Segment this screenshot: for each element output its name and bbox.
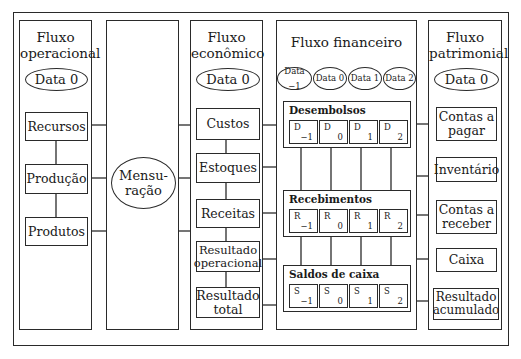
cell-d-minus1: D −1 bbox=[289, 120, 318, 144]
group-title: Recebimentos bbox=[289, 193, 372, 206]
date-ellipse: Data 2 bbox=[383, 67, 416, 90]
node-estoques: Estoques bbox=[196, 153, 260, 183]
node-produtos: Produtos bbox=[25, 217, 88, 246]
group-title: Saldos de caixa bbox=[289, 268, 379, 281]
date-label: Data −1 bbox=[278, 64, 311, 94]
date-ellipse: Data 1 bbox=[348, 67, 382, 90]
date-ellipse: Data 0 bbox=[25, 68, 88, 91]
node-resultado-total: Resultado total bbox=[196, 287, 260, 318]
cell-subscript: 1 bbox=[368, 296, 373, 306]
measurement-ellipse: Mensu- ração bbox=[111, 157, 176, 209]
cell-symbol: R bbox=[354, 211, 360, 221]
cell-subscript: −1 bbox=[300, 132, 313, 142]
node-caixa: Caixa bbox=[436, 248, 497, 272]
date-ellipse: Data −1 bbox=[277, 67, 312, 90]
ellipse-line: ração bbox=[125, 183, 162, 198]
node-label: acumulado bbox=[433, 304, 500, 317]
group-title: Desembolsos bbox=[289, 104, 366, 117]
date-label: Data 2 bbox=[385, 71, 413, 86]
node-label: total bbox=[213, 303, 242, 317]
node-resultado-acumulado: Resultado acumulado bbox=[433, 288, 499, 320]
node-label: Receitas bbox=[201, 207, 255, 221]
cell-r-minus1: R −1 bbox=[289, 209, 318, 233]
date-label: Data 0 bbox=[206, 72, 250, 87]
group-desembolsos: Desembolsos D −1 D 0 D 1 D 2 bbox=[283, 101, 411, 148]
date-label: Data 0 bbox=[316, 71, 344, 86]
node-resultado-operacional: Resultado operacional bbox=[196, 241, 260, 272]
node-inventario: Inventário bbox=[436, 157, 497, 182]
node-label: operacional bbox=[194, 257, 262, 270]
cell-symbol: S bbox=[294, 286, 300, 296]
node-label: Recursos bbox=[27, 120, 85, 134]
cell-s-1: S 1 bbox=[349, 284, 378, 308]
node-receitas: Receitas bbox=[196, 199, 260, 228]
cell-subscript: 1 bbox=[368, 132, 373, 142]
cell-r-2: R 2 bbox=[379, 209, 408, 233]
node-custos: Custos bbox=[196, 108, 260, 140]
cell-symbol: R bbox=[324, 211, 330, 221]
node-label: receber bbox=[442, 217, 491, 231]
cell-d-1: D 1 bbox=[349, 120, 378, 144]
cell-symbol: D bbox=[324, 122, 331, 132]
cell-s-0: S 0 bbox=[319, 284, 348, 308]
date-label: Data 0 bbox=[445, 72, 489, 87]
cell-symbol: D bbox=[384, 122, 391, 132]
cell-symbol: R bbox=[384, 211, 390, 221]
node-label: Resultado bbox=[196, 289, 259, 303]
cell-r-0: R 0 bbox=[319, 209, 348, 233]
cell-subscript: 0 bbox=[338, 296, 343, 306]
ellipse-line: Mensu- bbox=[119, 168, 168, 183]
node-recursos: Recursos bbox=[25, 112, 88, 141]
cell-symbol: S bbox=[324, 286, 330, 296]
cell-subscript: −1 bbox=[300, 221, 313, 231]
cell-symbol: D bbox=[354, 122, 361, 132]
cell-symbol: D bbox=[294, 122, 301, 132]
cell-subscript: 1 bbox=[368, 221, 373, 231]
cell-r-1: R 1 bbox=[349, 209, 378, 233]
date-ellipse: Data 0 bbox=[196, 68, 260, 91]
cell-d-2: D 2 bbox=[379, 120, 408, 144]
node-contas-a-pagar: Contas a pagar bbox=[436, 107, 497, 141]
cell-subscript: 0 bbox=[338, 221, 343, 231]
cell-subscript: −1 bbox=[300, 296, 313, 306]
node-label: Contas a bbox=[439, 203, 494, 217]
cell-s-minus1: S −1 bbox=[289, 284, 318, 308]
node-label: Resultado bbox=[199, 244, 257, 257]
group-recebimentos: Recebimentos R −1 R 0 R 1 R 2 bbox=[283, 190, 411, 237]
date-ellipse: Data 0 bbox=[434, 68, 499, 91]
node-label: Caixa bbox=[449, 253, 485, 267]
date-label: Data 1 bbox=[351, 71, 379, 86]
cell-subscript: 0 bbox=[338, 132, 343, 142]
node-label: Estoques bbox=[199, 161, 257, 175]
cell-subscript: 2 bbox=[398, 132, 403, 142]
cell-symbol: R bbox=[294, 211, 300, 221]
date-label: Data 0 bbox=[35, 72, 79, 87]
node-label: Produtos bbox=[28, 225, 85, 239]
node-label: pagar bbox=[448, 124, 485, 138]
node-contas-a-receber: Contas a receber bbox=[436, 200, 497, 234]
node-label: Produção bbox=[27, 172, 87, 186]
group-saldos-de-caixa: Saldos de caixa S −1 S 0 S 1 S 2 bbox=[283, 265, 411, 312]
node-label: Custos bbox=[207, 117, 250, 131]
cell-symbol: S bbox=[354, 286, 360, 296]
cell-symbol: S bbox=[384, 286, 390, 296]
node-label: Contas a bbox=[439, 110, 494, 124]
date-ellipse: Data 0 bbox=[313, 67, 347, 90]
cell-subscript: 2 bbox=[398, 296, 403, 306]
node-label: Inventário bbox=[434, 163, 499, 177]
cell-subscript: 2 bbox=[398, 221, 403, 231]
node-producao: Produção bbox=[25, 164, 88, 194]
cell-s-2: S 2 bbox=[379, 284, 408, 308]
cell-d-0: D 0 bbox=[319, 120, 348, 144]
